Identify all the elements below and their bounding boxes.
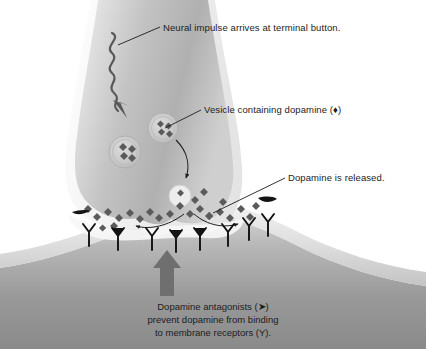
caption-line-1: Dopamine antagonists (➤) bbox=[0, 300, 426, 313]
figure-caption: Dopamine antagonists (➤) prevent dopamin… bbox=[0, 300, 426, 339]
antagonist-free bbox=[258, 197, 277, 202]
label-vesicle-dopamine: Vesicle containing dopamine (♦) bbox=[204, 104, 341, 116]
label-neural-impulse: Neural impulse arrives at terminal butto… bbox=[163, 22, 340, 34]
caption-line-2: prevent dopamine from binding bbox=[0, 313, 426, 326]
vesicle-upper-right bbox=[148, 113, 178, 143]
label-dopamine-released: Dopamine is released. bbox=[288, 172, 385, 184]
vesicle-lower-left bbox=[109, 136, 141, 168]
caption-line-3: to membrane receptors (Υ). bbox=[0, 326, 426, 339]
